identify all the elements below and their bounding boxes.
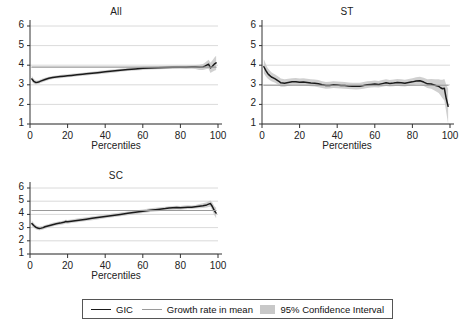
ytick-label: 6 xyxy=(6,181,24,192)
legend-line-gic-icon xyxy=(91,309,111,310)
panel-sc: SC Percentiles 123456020406080100 xyxy=(2,170,230,290)
ytick-label: 4 xyxy=(6,58,24,69)
panel-st: ST Percentiles 123456020406080100 xyxy=(232,6,462,161)
ytick-label: 6 xyxy=(6,19,24,30)
xtick-label: 100 xyxy=(436,130,464,141)
legend-line-growth-icon xyxy=(142,309,162,310)
panel-all-xlabel: Percentiles xyxy=(2,140,230,151)
xtick-label: 80 xyxy=(166,260,194,271)
xtick-label: 80 xyxy=(166,130,194,141)
figure-canvas: All Percentiles 123456020406080100 ST Pe… xyxy=(0,0,465,330)
legend-swatch-ci-icon xyxy=(260,305,275,314)
xtick-label: 60 xyxy=(129,260,157,271)
ytick-label: 5 xyxy=(238,39,256,50)
panel-all: All Percentiles 123456020406080100 xyxy=(2,6,230,161)
xtick-label: 0 xyxy=(16,130,44,141)
xtick-label: 20 xyxy=(286,130,314,141)
ytick-label: 4 xyxy=(238,58,256,69)
xtick-label: 40 xyxy=(91,130,119,141)
legend: GIC Growth rate in mean 95% Confidence I… xyxy=(82,299,393,319)
xtick-label: 100 xyxy=(204,130,232,141)
panel-st-title: ST xyxy=(232,6,462,17)
panel-all-title: All xyxy=(2,6,230,17)
ytick-label: 5 xyxy=(6,39,24,50)
xtick-label: 60 xyxy=(129,130,157,141)
legend-item-growth-rate-in-mean: Growth rate in mean xyxy=(142,304,253,315)
ytick-label: 2 xyxy=(238,97,256,108)
legend-label-growth-rate-in-mean: Growth rate in mean xyxy=(167,304,253,315)
xtick-label: 100 xyxy=(204,260,232,271)
legend-label-confidence-interval: 95% Confidence Interval xyxy=(280,304,384,315)
ytick-label: 3 xyxy=(238,78,256,89)
xtick-label: 40 xyxy=(323,130,351,141)
ytick-label: 1 xyxy=(6,247,24,258)
xtick-label: 80 xyxy=(398,130,426,141)
ytick-label: 5 xyxy=(6,194,24,205)
xtick-label: 40 xyxy=(91,260,119,271)
ytick-label: 3 xyxy=(6,221,24,232)
xtick-label: 60 xyxy=(361,130,389,141)
ytick-label: 1 xyxy=(238,117,256,128)
legend-label-gic: GIC xyxy=(116,304,133,315)
ytick-label: 2 xyxy=(6,97,24,108)
ytick-label: 2 xyxy=(6,234,24,245)
xtick-label: 0 xyxy=(16,260,44,271)
legend-item-confidence-interval: 95% Confidence Interval xyxy=(260,304,384,315)
ytick-label: 6 xyxy=(238,19,256,30)
legend-item-gic: GIC xyxy=(91,304,133,315)
ytick-label: 4 xyxy=(6,207,24,218)
ytick-label: 3 xyxy=(6,78,24,89)
xtick-label: 20 xyxy=(54,130,82,141)
panel-st-xlabel: Percentiles xyxy=(232,140,462,151)
panel-sc-xlabel: Percentiles xyxy=(2,270,230,281)
ytick-label: 1 xyxy=(6,117,24,128)
panel-sc-title: SC xyxy=(2,170,230,181)
xtick-label: 0 xyxy=(248,130,276,141)
xtick-label: 20 xyxy=(54,260,82,271)
